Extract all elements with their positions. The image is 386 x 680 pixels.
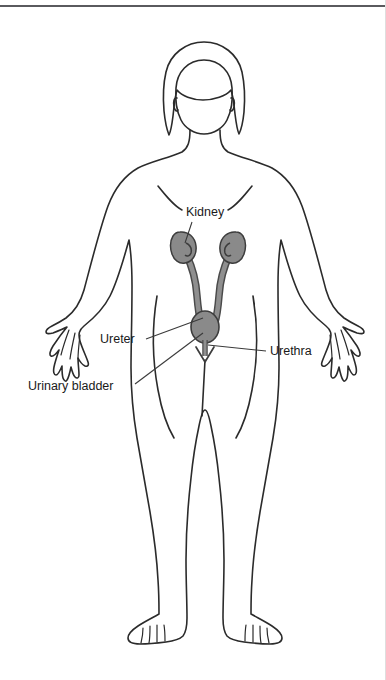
leader-urinary-bladder [135,333,203,384]
diagram-page: Kidney Ureter Urinary bladder Urethra [0,0,386,680]
chest-curve-left [158,186,182,210]
label-ureter: Ureter [100,332,135,346]
hip-contour-right [236,296,257,438]
urinary-system-diagram: Kidney Ureter Urinary bladder Urethra [0,0,386,680]
label-kidney: Kidney [186,205,225,219]
toes-left [141,625,165,643]
urethra-organ [196,340,214,362]
fingers-left [61,330,80,359]
kidney-right [220,232,246,263]
kidney-left [171,232,197,263]
fingers-right [330,330,349,359]
urinary-system-organs [171,232,246,362]
thigh-gap-line [202,360,205,416]
chest-curve-right [228,186,252,210]
labels: Kidney Ureter Urinary bladder Urethra [28,205,312,393]
label-urinary-bladder: Urinary bladder [28,379,113,393]
label-urethra: Urethra [270,344,312,358]
hip-contour-left [153,296,174,438]
face-outline [176,60,233,134]
toes-right [245,625,269,643]
